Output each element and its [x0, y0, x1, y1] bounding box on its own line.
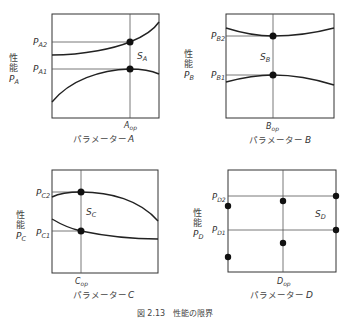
- panel-a-upper-curve: [52, 22, 159, 55]
- panel-d-level-1-label: PD1: [212, 225, 226, 236]
- panel-d-y-label-2: 能: [193, 217, 202, 228]
- panel-a-op-label: Aop: [123, 121, 137, 132]
- panel-a-x-letter: A: [127, 134, 134, 144]
- panel-d-point: [280, 198, 286, 204]
- panel-b-level-2-label: PB2: [211, 31, 225, 43]
- panel-b-y-label-2: 能: [184, 58, 193, 69]
- panel-c-upper-curve: [52, 192, 158, 221]
- panel-c-y-label-1: 性: [16, 209, 25, 220]
- panel-d-level-2-label: PD2: [212, 192, 226, 203]
- panel-c-upper-point: [78, 189, 85, 196]
- panel-d-x-label: パラメーター: [250, 290, 304, 300]
- panel-b-level-1-label: PB1: [211, 70, 225, 82]
- panel-a-lower-curve: [52, 69, 159, 102]
- panel-a-region-label: SA: [137, 51, 147, 63]
- panel-d-point: [280, 240, 286, 246]
- panel-c-region-label: SC: [86, 207, 97, 219]
- panel-d: PD2 PD1 SD 性 能 PD Dop パラメーター D: [193, 170, 339, 300]
- panel-b: PB2 PB1 SB 性 能 PB Bop パラメーター B: [184, 14, 334, 145]
- panel-b-y-label-1: 性: [184, 48, 193, 59]
- panel-d-point: [333, 193, 339, 199]
- panel-d-y-label-1: 性: [193, 207, 202, 218]
- panel-a-level-2-label: PA2: [33, 37, 47, 49]
- performance-limit-diagram: PA2 PA1 SA 性 能 PA Aop パラメーター A PB2 PB1 S…: [0, 0, 350, 318]
- panel-c-y-symbol: PC: [16, 231, 26, 243]
- panel-a-frame: [52, 14, 159, 118]
- panel-d-point: [225, 254, 231, 260]
- panel-b-upper-curve: [226, 28, 334, 36]
- panel-c-lower-curve: [52, 219, 158, 239]
- panel-b-region-label: SB: [260, 52, 271, 64]
- panel-d-frame: [228, 170, 336, 272]
- panel-c-level-2-label: PC2: [36, 188, 50, 200]
- panel-c-y-label-2: 能: [16, 219, 25, 230]
- panel-a-x-label: パラメーター: [73, 134, 127, 144]
- panel-a: PA2 PA1 SA 性 能 PA Aop パラメーター A: [9, 14, 159, 144]
- panel-c: PC2 PC1 SC 性 能 PC Cop パラメーター C: [16, 170, 158, 300]
- panel-c-frame: [52, 170, 158, 273]
- panel-d-point: [225, 203, 231, 209]
- panel-b-y-symbol: PB: [184, 70, 194, 82]
- figure-caption: 図 2.13 性能の限界: [137, 308, 213, 318]
- panel-d-x-letter: D: [306, 290, 313, 300]
- panel-b-frame: [226, 14, 334, 118]
- panel-b-op-label: Bop: [266, 122, 279, 133]
- panel-c-x-label: パラメーター: [73, 290, 127, 300]
- panel-a-upper-point: [127, 39, 134, 46]
- panel-a-y-label-2: 能: [9, 62, 18, 73]
- panel-b-lower-curve: [226, 75, 334, 85]
- panel-c-x-letter: C: [128, 290, 135, 300]
- panel-a-lower-point: [127, 66, 134, 73]
- panel-b-x-label: パラメーター: [249, 135, 303, 145]
- panel-b-x-letter: B: [305, 135, 311, 145]
- panel-c-op-label: Cop: [75, 277, 88, 288]
- panel-a-level-1-label: PA1: [33, 64, 47, 76]
- panel-b-lower-point: [270, 72, 277, 79]
- panel-d-y-symbol: PD: [193, 229, 203, 241]
- panel-d-point: [333, 227, 339, 233]
- panel-c-lower-point: [78, 228, 85, 235]
- panel-c-level-1-label: PC1: [36, 228, 50, 240]
- panel-b-upper-point: [270, 33, 277, 40]
- panel-d-region-label: SD: [315, 209, 326, 221]
- panel-a-y-label-1: 性: [9, 52, 18, 63]
- panel-d-op-label: Dop: [277, 277, 291, 288]
- panel-a-y-symbol: PA: [9, 74, 19, 86]
